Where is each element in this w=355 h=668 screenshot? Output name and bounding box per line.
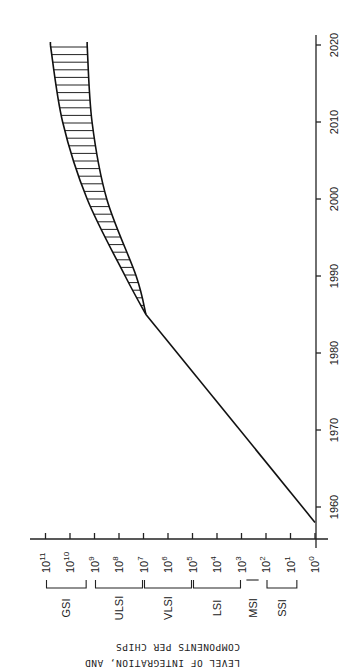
year-tick-label: 1970: [328, 418, 340, 442]
integration-level-label: LSI: [211, 600, 223, 617]
year-tick-label: 1990: [328, 264, 340, 288]
year-tick-label: 2000: [328, 187, 340, 211]
power-tick-label: 101: [283, 556, 297, 573]
power-tick-label: 1011: [38, 552, 52, 573]
power-tick-label: 106: [160, 556, 174, 573]
year-axis-ticks: 1960197019801990200020102020: [316, 33, 340, 519]
axis-title-line-2: COMPONENTS PER CHIPS: [116, 642, 240, 653]
year-tick-label: 1960: [328, 495, 340, 519]
projection-lower-curve: [87, 45, 146, 315]
year-tick-label: 1980: [328, 341, 340, 365]
integration-level-label: SSI: [276, 599, 288, 617]
projection-band-hatching: [51, 47, 144, 305]
power-tick-label: 105: [185, 556, 199, 573]
integration-level-label: VLSI: [162, 596, 174, 620]
power-tick-label: 100: [307, 556, 321, 573]
historical-trend-line: [146, 315, 315, 523]
integration-level-label: GSI: [60, 599, 72, 618]
axis-title: LEVEL OF INTEGRATION, AND COMPONENTS PER…: [85, 642, 241, 668]
power-tick-label: 108: [111, 556, 125, 573]
integration-level-label: ULSI: [113, 596, 125, 620]
integration-level-label: MSI: [247, 598, 259, 618]
integration-level-brackets: SSIMSILSIVLSIULSIGSI: [47, 580, 297, 620]
integration-chart: 1960197019801990200020102020 10010110210…: [0, 0, 355, 668]
chart-axes: [30, 35, 328, 548]
power-tick-label: 107: [136, 556, 150, 573]
year-tick-label: 2020: [328, 33, 340, 57]
power-tick-label: 104: [209, 556, 223, 573]
axis-title-line-1: LEVEL OF INTEGRATION, AND: [85, 658, 241, 668]
year-tick-label: 2010: [328, 110, 340, 134]
power-tick-label: 103: [234, 556, 248, 573]
power-tick-label: 1010: [62, 551, 76, 573]
power-tick-label: 109: [87, 556, 101, 573]
power-tick-label: 102: [258, 556, 272, 573]
trend-curves: [50, 42, 315, 522]
